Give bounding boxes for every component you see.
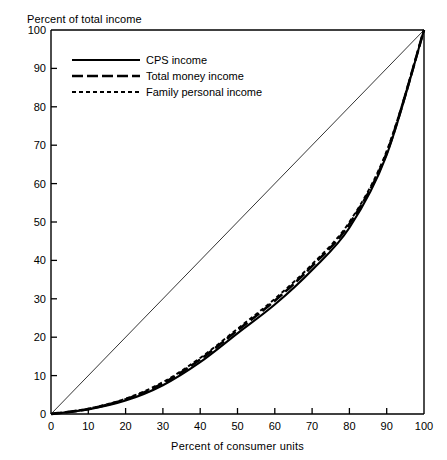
x-tick-label: 100 [415,420,433,432]
plot-canvas: 0102030405060708090100 01020304050607080… [0,0,447,460]
y-tick-label: 80 [34,101,46,113]
y-tick-label: 90 [34,62,46,74]
x-tick-label: 80 [343,420,355,432]
legend: CPS incomeTotal money incomeFamily perso… [72,54,262,98]
x-tick-label: 70 [306,420,318,432]
lorenz-curve-chart: Percent of total income 0102030405060708… [0,0,447,460]
x-tick-label: 30 [157,420,169,432]
y-tick-label: 70 [34,139,46,151]
x-tick-label: 0 [48,420,54,432]
y-tick-label: 60 [34,178,46,190]
x-tick-label: 90 [381,420,393,432]
legend-label: Family personal income [146,86,262,98]
x-tick-label: 60 [269,420,281,432]
y-tick-label: 50 [34,216,46,228]
x-axis-title: Percent of consumer units [143,440,304,452]
x-tick-label: 10 [82,420,94,432]
y-tick-label: 30 [34,293,46,305]
y-tick-label: 100 [28,24,46,36]
legend-label: Total money income [146,70,244,82]
legend-label: CPS income [146,54,207,66]
x-tick-label: 50 [231,420,243,432]
x-tick-label: 20 [119,420,131,432]
x-tick-label: 40 [194,420,206,432]
y-tick-label: 20 [34,331,46,343]
x-axis-title-wrap: Percent of consumer units [0,440,447,452]
y-tick-label: 40 [34,254,46,266]
y-tick-label: 0 [40,408,46,420]
y-tick-label: 10 [34,370,46,382]
y-tick-group: 0102030405060708090100 [28,24,57,420]
x-tick-group: 0102030405060708090100 [48,408,433,432]
